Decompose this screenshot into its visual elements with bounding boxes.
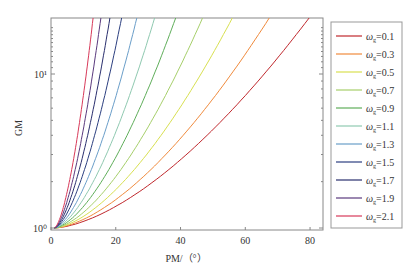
line-chart: 020406080 10⁰10¹ PM/（°） GM ωg=0.1ωg=0.3ω…	[0, 0, 409, 278]
x-axis-title: PM/（°）	[165, 253, 206, 264]
x-tick-label: 80	[305, 235, 315, 246]
y-tick-label: 10⁰	[33, 223, 47, 234]
series-line	[54, 18, 202, 228]
plot-area	[51, 18, 323, 230]
plot-frame	[51, 18, 323, 230]
legend-label: ωg=0.9	[366, 103, 394, 115]
series-line	[54, 18, 93, 228]
legend-label: ωg=0.7	[366, 85, 394, 97]
legend-label: ωg=0.1	[366, 31, 394, 43]
series-lines	[54, 18, 309, 228]
legend-label: ωg=0.3	[366, 49, 394, 61]
legend-label: ωg=1.5	[366, 157, 394, 169]
legend: ωg=0.1ωg=0.3ωg=0.5ωg=0.7ωg=0.9ωg=1.1ωg=1…	[331, 22, 402, 228]
x-tick-label: 40	[176, 235, 186, 246]
series-line	[54, 18, 110, 228]
legend-label: ωg=0.5	[366, 67, 394, 79]
x-tick-label: 20	[111, 235, 121, 246]
series-line	[54, 18, 269, 228]
legend-label: ωg=1.1	[366, 121, 394, 133]
legend-label: ωg=1.3	[366, 139, 394, 151]
x-tick-label: 0	[49, 235, 54, 246]
series-line	[54, 18, 121, 228]
x-tick-label: 60	[240, 235, 250, 246]
y-axis-title: GM	[13, 120, 24, 136]
series-line	[54, 18, 232, 228]
legend-label: ωg=1.9	[366, 193, 394, 205]
legend-label: ωg=1.7	[366, 175, 394, 187]
series-line	[54, 18, 101, 228]
y-tick-label: 10¹	[34, 69, 47, 80]
series-line	[54, 18, 309, 228]
legend-label: ωg=2.1	[366, 211, 394, 223]
